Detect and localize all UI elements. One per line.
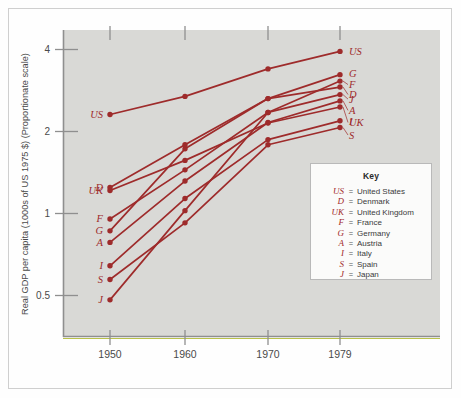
legend-entry-name: Japan — [355, 270, 379, 280]
y-tick-label: 1 — [44, 208, 50, 219]
legend-entry-abbr: A — [318, 238, 347, 248]
legend-entry-name: France — [355, 218, 382, 228]
data-point-us-1950 — [107, 112, 112, 117]
x-tick-label: 1979 — [328, 348, 352, 360]
legend-entry-separator: = — [347, 218, 355, 228]
legend-entry-name: Germany — [355, 229, 390, 239]
legend-entry-separator: = — [347, 187, 355, 197]
legend-entry-name: Spain — [355, 260, 377, 270]
data-point-j-1970 — [265, 110, 270, 115]
legend-entry: J=Japan — [318, 269, 424, 279]
data-point-g-1950 — [107, 228, 112, 233]
data-point-j-1979 — [337, 92, 342, 97]
left-label-f: F — [96, 213, 104, 224]
legend-entry-separator: = — [347, 197, 355, 207]
data-point-f-1960 — [182, 167, 187, 172]
data-point-us-1970 — [265, 66, 270, 71]
legend-entry-abbr: F — [318, 217, 347, 227]
left-label-a: A — [96, 237, 104, 248]
legend-entry-abbr: US — [318, 186, 347, 196]
legend-entry: US=United States — [318, 186, 424, 196]
legend-entry-separator: = — [347, 260, 355, 270]
legend-entries: US=United StatesD=DenmarkUK=United Kingd… — [318, 186, 424, 280]
legend-entry: S=Spain — [318, 259, 424, 269]
data-point-s-1979 — [337, 125, 342, 130]
right-label-s: S — [349, 130, 355, 141]
legend-entry: D=Denmark — [318, 196, 424, 206]
legend-entry: I=Italy — [318, 248, 424, 258]
legend-entry-name: Austria — [355, 239, 382, 249]
legend-entry-abbr: D — [318, 196, 347, 206]
legend-entry-abbr: J — [318, 269, 347, 279]
legend-entry-separator: = — [347, 249, 355, 259]
legend-title: Key — [318, 171, 424, 181]
left-label-g: G — [95, 225, 103, 236]
data-point-a-1950 — [107, 240, 112, 245]
right-label-a: A — [348, 105, 356, 116]
legend-entry-name: Denmark — [355, 197, 389, 207]
legend-entry-abbr: G — [318, 228, 347, 238]
y-axis-label: Real GDP per capita (1000s of US 1975 $)… — [20, 53, 30, 315]
data-point-a-1979 — [337, 98, 342, 103]
left-label-uk: UK — [88, 185, 104, 196]
data-point-f-1950 — [107, 216, 112, 221]
data-point-uk-1970 — [265, 120, 270, 125]
legend-entry: A=Austria — [318, 238, 424, 248]
right-label-g: G — [349, 68, 357, 79]
legend-entry-abbr: I — [318, 248, 347, 258]
legend-entry: UK=United Kingdom — [318, 207, 424, 217]
legend-entry-name: Italy — [355, 249, 372, 259]
legend-entry-separator: = — [347, 270, 355, 280]
x-tick-label: 1970 — [256, 348, 280, 360]
legend-key-box: Key US=United StatesD=DenmarkUK=United K… — [310, 163, 432, 280]
data-point-s-1970 — [265, 142, 270, 147]
y-tick-label: 4 — [44, 44, 50, 55]
y-tick-label: 2 — [44, 126, 50, 137]
data-point-i-1970 — [265, 137, 270, 142]
legend-entry-name: United Kingdom — [355, 208, 414, 218]
data-point-d-1979 — [337, 84, 342, 89]
left-label-i: I — [99, 260, 104, 271]
left-label-us: US — [90, 109, 104, 120]
data-point-us-1979 — [337, 49, 342, 54]
legend-entry: F=France — [318, 217, 424, 227]
data-point-uk-1950 — [107, 188, 112, 193]
data-point-i-1950 — [107, 263, 112, 268]
y-tick-label: 0.5 — [36, 290, 50, 301]
data-point-d-1960 — [182, 142, 187, 147]
x-tick-label: 1960 — [173, 348, 197, 360]
data-point-i-1960 — [182, 196, 187, 201]
data-point-d-1970 — [265, 96, 270, 101]
left-label-s: S — [98, 274, 104, 285]
data-point-g-1979 — [337, 72, 342, 77]
data-point-s-1950 — [107, 277, 112, 282]
data-point-j-1950 — [107, 297, 112, 302]
legend-entry-name: United States — [355, 187, 405, 197]
right-label-us: US — [349, 46, 363, 57]
data-point-s-1960 — [182, 220, 187, 225]
data-point-j-1960 — [182, 208, 187, 213]
data-point-f-1979 — [337, 78, 342, 83]
x-tick-label: 1950 — [98, 348, 122, 360]
legend-entry-separator: = — [347, 208, 355, 218]
legend-entry-abbr: UK — [318, 207, 347, 217]
legend-entry-separator: = — [347, 239, 355, 249]
data-point-i-1979 — [337, 118, 342, 123]
right-label-i: I — [348, 116, 353, 127]
data-point-us-1960 — [182, 94, 187, 99]
legend-entry-abbr: S — [318, 259, 347, 269]
data-point-a-1960 — [182, 178, 187, 183]
data-point-uk-1960 — [182, 158, 187, 163]
data-point-uk-1979 — [337, 104, 342, 109]
legend-entry-separator: = — [347, 229, 355, 239]
legend-entry: G=Germany — [318, 228, 424, 238]
figure-container: 4 2 1 0.5 1950 1960 1970 1979 Real GDP p… — [0, 0, 461, 398]
